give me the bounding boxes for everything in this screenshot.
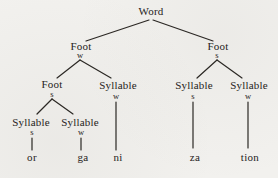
- node-syllable-right-w: Syllable: [230, 80, 268, 91]
- edge-footinner-syllablew: [52, 99, 73, 114]
- stress-syllable-left-s: s: [30, 128, 33, 137]
- edge-footright-syllablew: [217, 60, 242, 78]
- leaf-ga: ga: [78, 152, 89, 163]
- edge-word-footleft: [86, 20, 149, 41]
- node-syllable-right-s: Syllable: [175, 80, 213, 91]
- stress-foot-left-inner: s: [50, 90, 53, 99]
- edge-footinner-syllables: [37, 99, 52, 114]
- stress-syllable-right-w: w: [245, 92, 251, 101]
- edge-footright-syllables: [197, 60, 217, 78]
- stress-foot-left: w: [77, 51, 83, 60]
- node-word: Word: [139, 6, 164, 17]
- stress-syllable-left-w: w: [78, 128, 84, 137]
- leaf-or: or: [27, 152, 37, 163]
- leaf-za: za: [190, 152, 200, 163]
- stress-syllable-mid: w: [113, 92, 119, 101]
- node-syllable-mid: Syllable: [99, 80, 137, 91]
- edge-footleft-syllablemid: [80, 60, 111, 78]
- edge-word-footright: [153, 20, 213, 41]
- leaf-tion: tion: [241, 152, 259, 163]
- edge-footleft-footinner: [57, 60, 80, 78]
- stress-syllable-right-s: s: [191, 92, 194, 101]
- leaf-ni: ni: [113, 152, 122, 163]
- prosodic-tree-diagram: Word Foot w Foot s Foot s Syllable w Syl…: [0, 0, 278, 178]
- stress-foot-right: s: [215, 51, 218, 60]
